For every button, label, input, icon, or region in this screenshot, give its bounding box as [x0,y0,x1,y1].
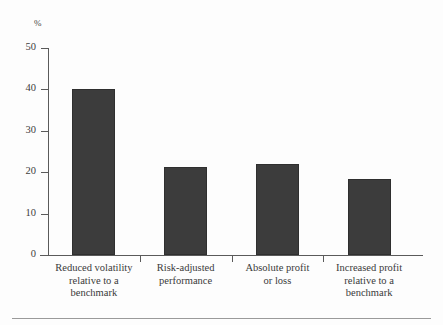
bar-chart: % 01020304050 Reduced volatilityrelative… [0,0,443,325]
footer-divider [12,318,431,319]
x-axis-category-label: Reduced volatilityrelative to abenchmark [42,262,146,300]
y-axis-tick-label: 10 [14,208,36,219]
y-axis-tick-label-wrap: 20 [0,172,49,173]
x-axis-tick-mark [140,255,141,262]
y-axis-tick-label-wrap: 0 [0,255,49,256]
y-axis-tick-label-wrap: 10 [0,214,49,215]
x-axis-category-label-line: or loss [226,275,330,288]
x-axis-tick-mark [232,255,233,262]
bar [348,179,391,255]
x-axis-category-label-line: Absolute profit [226,262,330,275]
x-axis-category-label: Risk-adjustedperformance [134,262,238,287]
x-axis-category-label-line: benchmark [42,287,146,300]
y-axis-tick-label: 30 [14,125,36,136]
y-axis-tick-label-wrap: 50 [0,48,49,49]
x-axis-category-label-line: benchmark [317,287,421,300]
bar [72,89,115,255]
y-axis-tick-label-wrap: 40 [0,89,49,90]
y-axis-tick-label: 20 [14,166,36,177]
bar [164,167,207,255]
y-axis-tick-label: 0 [14,249,36,260]
x-axis-category-label: Absolute profitor loss [226,262,330,287]
x-axis-category-label-line: Risk-adjusted [134,262,238,275]
plot-area [48,48,415,255]
x-axis-category-label: Increased profitrelative to abenchmark [317,262,421,300]
y-axis-tick-label: 50 [14,42,36,53]
x-axis-category-label-line: Increased profit [317,262,421,275]
x-axis-tick-mark [323,255,324,262]
y-axis-tick-label: 40 [14,83,36,94]
x-axis-category-label-line: relative to a [317,275,421,288]
x-axis-category-label-line: relative to a [42,275,146,288]
x-axis-category-label-line: performance [134,275,238,288]
y-axis-tick-label-wrap: 30 [0,131,49,132]
bar [256,164,299,255]
x-axis-category-label-line: Reduced volatility [42,262,146,275]
y-axis-unit-label: % [34,18,42,28]
